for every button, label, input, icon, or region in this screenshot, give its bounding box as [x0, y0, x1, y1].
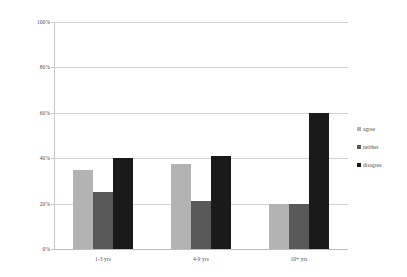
bar-agree-10-yrs[interactable]	[269, 204, 289, 249]
gridline-0	[54, 249, 348, 250]
legend-item-disagree[interactable]: disagree	[357, 156, 405, 174]
bar-neither-10-yrs[interactable]	[289, 204, 309, 249]
y-axis-label-20: 20%	[6, 201, 50, 207]
bar-chart: 100%80%60%40%20%0% 1-3 yrs4-9 yrs10+ yrs…	[0, 0, 407, 277]
bar-disagree-4-9-yrs[interactable]	[211, 156, 231, 249]
y-axis-label-100: 100%	[6, 19, 50, 25]
bar-neither-1-3-yrs[interactable]	[93, 192, 113, 249]
bar-disagree-1-3-yrs[interactable]	[113, 158, 133, 249]
chart-legend: agreeneitherdisagree	[357, 120, 405, 174]
bar-group-4-9-yrs	[152, 22, 250, 249]
y-axis-label-40: 40%	[6, 155, 50, 161]
y-axis-label-80: 80%	[6, 64, 50, 70]
y-tick-mark	[51, 249, 54, 250]
x-axis-label-10-yrs: 10+ yrs	[250, 256, 348, 263]
legend-label: agree	[363, 126, 375, 133]
legend-label: disagree	[363, 162, 382, 169]
legend-swatch-icon	[357, 145, 361, 149]
plot-area	[54, 22, 348, 249]
x-axis-label-1-3-yrs: 1-3 yrs	[54, 256, 152, 263]
y-axis-label-0: 0%	[6, 246, 50, 252]
bar-group-1-3-yrs	[54, 22, 152, 249]
bar-agree-1-3-yrs[interactable]	[73, 170, 93, 249]
legend-item-neither[interactable]: neither	[357, 138, 405, 156]
y-axis-label-60: 60%	[6, 110, 50, 116]
legend-item-agree[interactable]: agree	[357, 120, 405, 138]
legend-swatch-icon	[357, 163, 361, 167]
bar-neither-4-9-yrs[interactable]	[191, 201, 211, 249]
bar-agree-4-9-yrs[interactable]	[171, 164, 191, 249]
x-axis-label-4-9-yrs: 4-9 yrs	[152, 256, 250, 263]
legend-label: neither	[363, 144, 379, 151]
bar-group-10-yrs	[250, 22, 348, 249]
legend-swatch-icon	[357, 127, 361, 131]
bar-disagree-10-yrs[interactable]	[309, 113, 329, 249]
